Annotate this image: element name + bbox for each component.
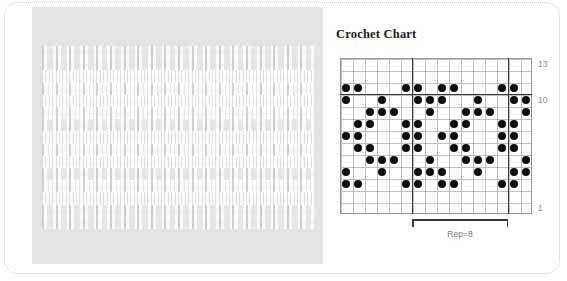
chart-stitch-dot xyxy=(510,84,518,92)
chart-stitch-dot xyxy=(402,132,410,140)
chart-stitch-dot xyxy=(342,96,350,104)
chart-stitch-dot xyxy=(474,96,482,104)
lace-stitch-row xyxy=(42,180,314,192)
chart-stitch-dot xyxy=(498,144,506,152)
chart-stitch-dot xyxy=(462,108,470,116)
chart-stitch-dot xyxy=(510,168,518,176)
crochet-chart-panel: Crochet Chart Rep=8 13101 xyxy=(336,27,560,257)
chart-stitch-dot xyxy=(522,168,530,176)
chart-stitch-dot xyxy=(342,132,350,140)
chart-stitch-dot xyxy=(462,144,470,152)
chart-stitch-dot xyxy=(438,96,446,104)
chart-stitch-dot xyxy=(354,120,362,128)
lace-stitch-row xyxy=(42,205,314,217)
chart-stitch-dot xyxy=(522,108,530,116)
lace-stitch-row xyxy=(42,144,314,156)
chart-heavy-vertical-line xyxy=(412,58,413,214)
chart-stitch-dot xyxy=(378,156,386,164)
lace-stitch-row xyxy=(42,156,314,168)
chart-stitch-dot xyxy=(402,120,410,128)
chart-stitch-dot xyxy=(414,84,422,92)
chart-stitch-dot xyxy=(390,108,398,116)
chart-stitch-dot xyxy=(354,132,362,140)
chart-stitch-dot xyxy=(486,156,494,164)
chart-stitch-dot xyxy=(450,120,458,128)
chart-stitch-dot xyxy=(474,168,482,176)
lace-stitch-row xyxy=(42,119,314,131)
chart-stitch-dot xyxy=(450,180,458,188)
chart-stitch-dot xyxy=(414,132,422,140)
chart-stitch-dot xyxy=(510,132,518,140)
chart-stitch-dot xyxy=(498,84,506,92)
chart-stitch-dot xyxy=(366,144,374,152)
chart-stitch-dot xyxy=(438,168,446,176)
chart-stitch-dot xyxy=(438,180,446,188)
chart-stitch-dot xyxy=(522,96,530,104)
chart-stitch-dot xyxy=(426,96,434,104)
chart-stitch-dot xyxy=(498,180,506,188)
chart-stitch-dot xyxy=(474,156,482,164)
chart-stitch-dot xyxy=(402,144,410,152)
chart-heavy-vertical-line xyxy=(508,58,509,214)
chart-row-label-10: 10 xyxy=(538,95,547,105)
chart-stitch-dot xyxy=(426,168,434,176)
chart-grid-wrapper xyxy=(340,58,532,214)
chart-stitch-dot xyxy=(462,156,470,164)
chart-stitch-dot xyxy=(402,180,410,188)
page-root: Crochet Chart Rep=8 13101 xyxy=(0,0,567,281)
chart-stitch-dot xyxy=(414,180,422,188)
chart-stitch-dot xyxy=(414,96,422,104)
lace-stitch-row xyxy=(42,192,314,204)
chart-stitch-dot xyxy=(510,180,518,188)
lace-stitch-row xyxy=(42,168,314,180)
chart-stitch-dot xyxy=(378,108,386,116)
chart-stitch-dot xyxy=(486,108,494,116)
chart-stitch-dot xyxy=(450,132,458,140)
chart-stitch-dot xyxy=(342,180,350,188)
chart-stitch-dot xyxy=(498,120,506,128)
chart-stitch-dot xyxy=(378,168,386,176)
chart-stitch-dot xyxy=(498,132,506,140)
lace-stitch-row xyxy=(42,83,314,95)
chart-stitch-dot xyxy=(366,120,374,128)
chart-stitch-dot xyxy=(342,84,350,92)
lace-stitch-row xyxy=(42,95,314,107)
crochet-lace-swatch-photo xyxy=(32,7,323,264)
chart-stitch-dot xyxy=(462,120,470,128)
chart-stitch-dot xyxy=(426,108,434,116)
repeat-label: Rep=8 xyxy=(412,229,508,239)
chart-stitch-dot xyxy=(366,156,374,164)
chart-stitch-dot xyxy=(354,144,362,152)
chart-stitch-dot xyxy=(510,120,518,128)
chart-heavy-horizontal-line xyxy=(340,94,532,95)
chart-stitch-dot xyxy=(450,144,458,152)
chart-stitch-dot xyxy=(438,84,446,92)
repeat-bracket-line xyxy=(412,219,508,221)
chart-stitch-dot xyxy=(522,156,530,164)
chart-stitch-dot xyxy=(450,84,458,92)
chart-stitch-dot xyxy=(510,144,518,152)
repeat-tick-end xyxy=(507,219,509,227)
chart-stitch-dot xyxy=(366,108,374,116)
lace-stitch-row xyxy=(42,217,314,229)
chart-stitch-dot xyxy=(402,84,410,92)
lace-stitch-row xyxy=(42,46,314,58)
chart-stitch-dot xyxy=(426,156,434,164)
lace-swatch xyxy=(42,46,314,229)
lace-stitch-row xyxy=(42,131,314,143)
chart-row-label-13: 13 xyxy=(538,59,547,69)
chart-stitch-dot xyxy=(390,156,398,164)
chart-row-label-1: 1 xyxy=(538,203,543,213)
lace-stitch-row xyxy=(42,70,314,82)
repeat-tick-start xyxy=(412,219,414,227)
lace-stitch-row xyxy=(42,58,314,70)
repeat-bracket xyxy=(340,219,532,229)
lace-stitch-row xyxy=(42,107,314,119)
chart-stitch-dot xyxy=(510,96,518,104)
chart-stitch-dot xyxy=(414,144,422,152)
chart-stitch-dot xyxy=(354,84,362,92)
chart-title: Crochet Chart xyxy=(336,27,416,42)
chart-stitch-dot xyxy=(354,180,362,188)
chart-stitch-dot xyxy=(414,168,422,176)
chart-stitch-dot xyxy=(438,132,446,140)
